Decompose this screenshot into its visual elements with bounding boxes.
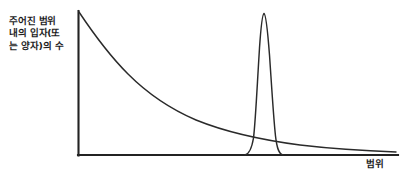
y-axis-label-line-1: 주어진 범위 [9, 15, 75, 27]
y-axis-label: 주어진 범위 내의 입자(또 는 양자)의 수 [9, 15, 75, 52]
exponential-decay-vs-peak-chart: 주어진 범위 내의 입자(또 는 양자)의 수 범위 [0, 0, 401, 176]
y-axis-label-line-2: 내의 입자(또 [9, 27, 75, 39]
y-axis-label-line-3: 는 양자)의 수 [9, 40, 75, 52]
gaussian-peak-curve [245, 14, 283, 156]
x-axis-label: 범위 [366, 158, 384, 170]
exponential-decay-curve [79, 12, 396, 152]
